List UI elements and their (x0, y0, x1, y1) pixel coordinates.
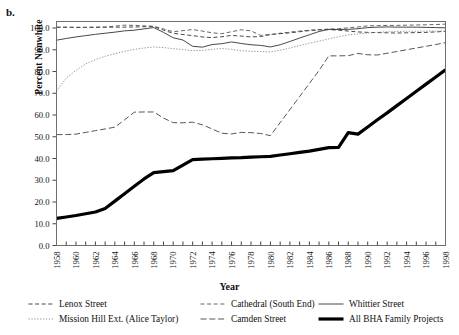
legend-label: Cathedral (South End) (231, 299, 315, 309)
y-tick-label: 60.0 (34, 110, 49, 120)
x-tick-label: 1994 (402, 251, 412, 269)
legend-swatch-solid-bold-icon (318, 314, 344, 324)
y-tick-label: 80.0 (34, 67, 49, 77)
y-tick-label: 20.0 (34, 197, 49, 207)
x-tick-label: 1970 (168, 252, 178, 269)
series-line-cathedral-south-end (57, 24, 446, 35)
x-tick-label: 1960 (71, 252, 81, 269)
legend-row: Mission Hill Ext. (Alice Taylor)Camden S… (0, 311, 459, 327)
legend-item-all-bha-family-projects[interactable]: All BHA Family Projects (318, 311, 443, 327)
series-layer (57, 24, 446, 218)
y-tick-label: 0.0 (39, 241, 50, 251)
legend-swatch-dashed-short-icon (200, 299, 226, 309)
x-tick-label: 1962 (91, 252, 101, 269)
legend-swatch-dashed-long-icon (200, 314, 226, 324)
y-tick-label: 70.0 (34, 88, 49, 98)
legend-label: Mission Hill Ext. (Alice Taylor) (59, 314, 178, 324)
series-line-mission-hill-ext-alice-taylor (57, 31, 446, 91)
x-tick-label: 1988 (343, 252, 353, 269)
y-tick-label: 40.0 (34, 154, 49, 164)
legend-label: All BHA Family Projects (349, 314, 443, 324)
x-tick-label: 1966 (130, 251, 140, 269)
x-tick-label: 1958 (52, 252, 62, 269)
legend-swatch-dotted-icon (28, 314, 54, 324)
chart-figure: b. Percent Nonwhite Year 0.010.020.030.0… (0, 0, 459, 335)
legend-label: Whittier Street (349, 299, 404, 309)
x-tick-label: 1986 (324, 251, 334, 269)
y-tick-label: 10.0 (34, 219, 49, 229)
series-line-all-bha-family-projects (57, 70, 446, 219)
x-tick-label: 1980 (266, 252, 276, 269)
legend-swatch-dashed-short-icon (28, 299, 54, 309)
x-tick-label: 1968 (149, 252, 159, 269)
x-tick-label: 1984 (305, 251, 315, 269)
axis-layer: 0.010.020.030.040.050.060.070.080.090.01… (30, 23, 451, 269)
legend-item-camden-street[interactable]: Camden Street (200, 311, 286, 327)
plot-frame (57, 22, 446, 246)
x-tick-label: 1974 (207, 251, 217, 269)
y-tick-label: 100.0 (30, 23, 49, 33)
legend-row: Lenox StreetCathedral (South End)Whittie… (0, 296, 459, 312)
x-tick-label: 1964 (110, 251, 120, 269)
legend-item-mission-hill-ext-alice-taylor[interactable]: Mission Hill Ext. (Alice Taylor) (28, 311, 178, 327)
x-tick-label: 1972 (188, 252, 198, 269)
legend-item-cathedral-south-end[interactable]: Cathedral (South End) (200, 296, 315, 312)
series-line-whittier-street (57, 27, 446, 47)
x-tick-label: 1998 (441, 252, 451, 269)
legend-item-whittier-street[interactable]: Whittier Street (318, 296, 404, 312)
chart-legend: Lenox StreetCathedral (South End)Whittie… (0, 296, 459, 334)
legend-label: Lenox Street (59, 299, 107, 309)
x-tick-label: 1992 (382, 252, 392, 269)
legend-label: Camden Street (231, 314, 286, 324)
x-tick-label: 1990 (363, 252, 373, 269)
y-tick-label: 30.0 (34, 175, 49, 185)
legend-item-lenox-street[interactable]: Lenox Street (28, 296, 107, 312)
y-tick-label: 50.0 (34, 132, 49, 142)
plot-area: 0.010.020.030.040.050.060.070.080.090.01… (0, 0, 459, 296)
x-tick-label: 1996 (421, 251, 431, 269)
legend-swatch-solid-thin-icon (318, 299, 344, 309)
x-tick-label: 1976 (227, 251, 237, 269)
x-tick-label: 1978 (246, 252, 256, 269)
series-line-camden-street (57, 43, 446, 136)
x-tick-label: 1982 (285, 252, 295, 269)
y-tick-label: 90.0 (34, 45, 49, 55)
